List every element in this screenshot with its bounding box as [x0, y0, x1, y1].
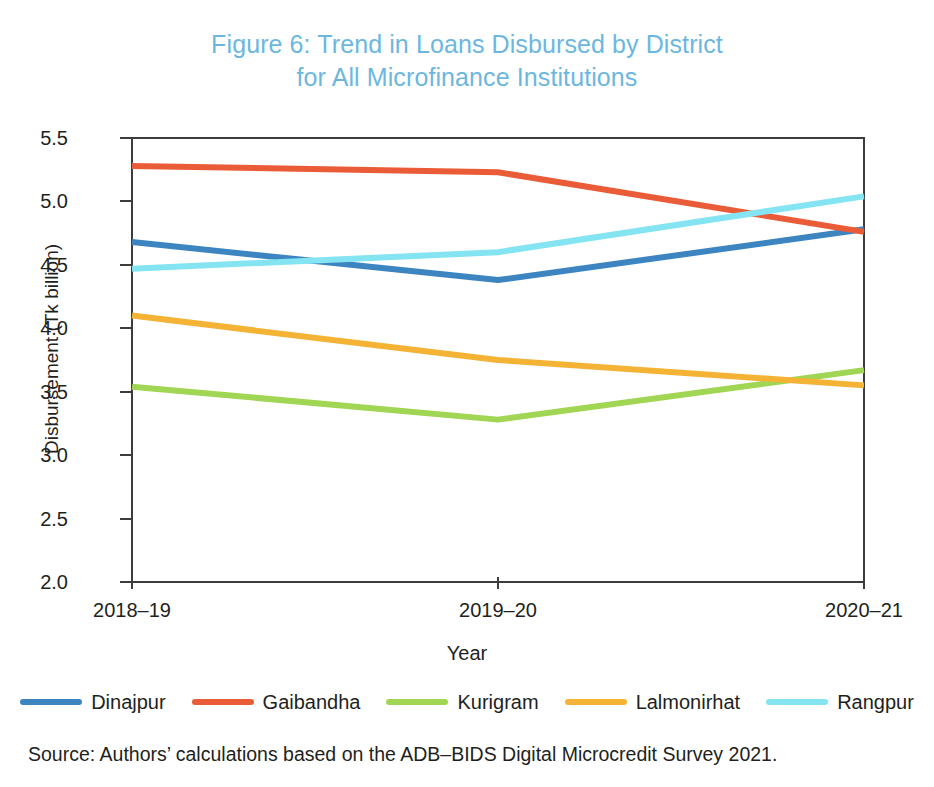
y-axis-title: Disbursement (Tk billion) — [41, 129, 63, 569]
x-axis-title: Year — [0, 642, 934, 665]
y-axis-tick — [120, 264, 132, 266]
y-axis-tick — [120, 137, 132, 139]
figure-title: Figure 6: Trend in Loans Disbursed by Di… — [0, 28, 934, 94]
legend-item-lalmonirhat[interactable]: Lalmonirhat — [565, 692, 741, 712]
y-axis-tick — [120, 327, 132, 329]
y-axis-tick — [120, 391, 132, 393]
series-line-rangpur — [132, 196, 864, 268]
legend-label: Dinajpur — [91, 692, 165, 712]
legend-label: Gaibandha — [263, 692, 361, 712]
legend-swatch-icon — [20, 699, 82, 705]
source-note: Source: Authors’ calculations based on t… — [28, 742, 777, 766]
x-axis-tick-label: 2018–19 — [52, 598, 212, 622]
legend-label: Kurigram — [457, 692, 538, 712]
x-axis-tick-label: 2019–20 — [418, 598, 578, 622]
y-axis-tick — [120, 518, 132, 520]
y-axis-tick — [120, 454, 132, 456]
figure-title-line-2: for All Microfinance Institutions — [0, 61, 934, 94]
x-axis-tick-label: 2020–21 — [784, 598, 934, 622]
legend-label: Rangpur — [837, 692, 914, 712]
chart-legend: DinajpurGaibandhaKurigramLalmonirhatRang… — [0, 692, 934, 712]
legend-swatch-icon — [192, 699, 254, 705]
legend-swatch-icon — [565, 699, 627, 705]
legend-item-dinajpur[interactable]: Dinajpur — [20, 692, 165, 712]
figure-container: Figure 6: Trend in Loans Disbursed by Di… — [0, 0, 934, 787]
plot-area — [132, 138, 864, 582]
y-axis-tick-label: 2.0 — [8, 572, 68, 592]
series-line-gaibandha — [132, 166, 864, 232]
figure-title-line-1: Figure 6: Trend in Loans Disbursed by Di… — [211, 30, 723, 58]
series-line-lalmonirhat — [132, 316, 864, 386]
legend-swatch-icon — [766, 699, 828, 705]
legend-swatch-icon — [386, 699, 448, 705]
series-lines — [132, 138, 864, 582]
legend-label: Lalmonirhat — [636, 692, 741, 712]
legend-item-rangpur[interactable]: Rangpur — [766, 692, 914, 712]
legend-item-gaibandha[interactable]: Gaibandha — [192, 692, 361, 712]
y-axis-tick — [120, 200, 132, 202]
legend-item-kurigram[interactable]: Kurigram — [386, 692, 538, 712]
